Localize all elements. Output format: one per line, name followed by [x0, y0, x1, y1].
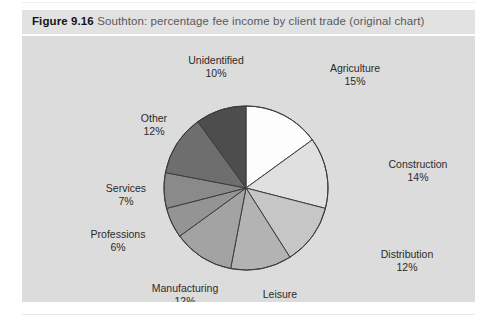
pie-label-leisure-name: Leisure [263, 288, 297, 300]
figure-caption: Figure 9.16 Southton: percentage fee inc… [32, 15, 424, 27]
pie-label-services: Services 7% [74, 182, 178, 207]
pie-label-other: Other 12% [104, 112, 204, 137]
pie-label-leisure-value: 12% [230, 301, 330, 303]
pie-label-other-value: 12% [104, 125, 204, 138]
pie-label-unidentified-name: Unidentified [188, 54, 243, 66]
pie-label-leisure: Leisure 12% [230, 288, 330, 302]
pie-label-unidentified: Unidentified 10% [161, 54, 271, 79]
page-bottom-rule [22, 314, 475, 315]
pie-chart-panel: Unidentified 10% Agriculture 15% Constru… [22, 36, 475, 302]
pie-label-services-value: 7% [74, 195, 178, 208]
pie-label-services-name: Services [106, 182, 146, 194]
pie-label-distribution-value: 12% [352, 261, 462, 274]
figure-caption-bar: Figure 9.16 Southton: percentage fee inc… [22, 10, 475, 34]
pie-label-professions: Professions 6% [64, 228, 172, 253]
pie-label-manufacturing-name: Manufacturing [152, 282, 219, 294]
figure-container: Figure 9.16 Southton: percentage fee inc… [22, 10, 475, 302]
pie-label-agriculture-value: 15% [300, 75, 410, 88]
pie-label-professions-value: 6% [64, 241, 172, 254]
page-top-rule [22, 2, 475, 3]
pie-label-professions-name: Professions [91, 228, 146, 240]
pie-label-manufacturing-value: 12% [126, 295, 244, 303]
pie-label-distribution-name: Distribution [381, 248, 434, 260]
pie-label-construction-name: Construction [389, 158, 448, 170]
figure-number: Figure 9.16 [32, 15, 94, 27]
pie-label-manufacturing: Manufacturing 12% [126, 282, 244, 302]
pie-label-distribution: Distribution 12% [352, 248, 462, 273]
pie-label-agriculture: Agriculture 15% [300, 62, 410, 87]
pie-label-agriculture-name: Agriculture [330, 62, 380, 74]
pie-label-construction: Construction 14% [362, 158, 474, 183]
figure-caption-text: Southton: percentage fee income by clien… [97, 15, 424, 27]
pie-label-construction-value: 14% [362, 171, 474, 184]
pie-label-unidentified-value: 10% [161, 67, 271, 80]
pie-label-other-name: Other [141, 112, 167, 124]
